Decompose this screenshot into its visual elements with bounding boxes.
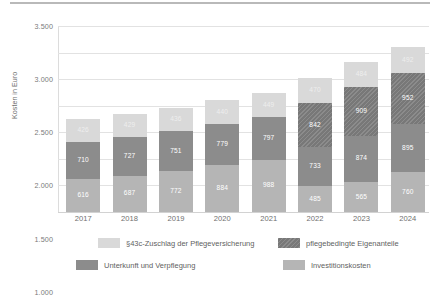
bar-group[interactable]: 884779440 — [205, 100, 239, 212]
bar-segment-value-label: 436 — [170, 116, 181, 123]
bar-segment-value-label: 426 — [77, 127, 88, 134]
bar-segment[interactable]: 436 — [159, 108, 193, 131]
bar-segment-value-label: 616 — [77, 192, 88, 199]
bar-segment[interactable]: 842 — [298, 103, 332, 148]
legend-swatch-icon — [76, 260, 98, 270]
bar-group[interactable]: 760895952492 — [391, 47, 425, 212]
bar-segment-value-label: 779 — [217, 141, 228, 148]
bar-segment-value-label: 429 — [124, 122, 135, 129]
x-axis-tick-label: 2017 — [66, 214, 100, 223]
legend-item-label: pflegebedingte Eigenanteile — [306, 239, 399, 248]
bar-segment-value-label: 909 — [356, 108, 367, 115]
legend-swatch-icon — [278, 238, 300, 248]
bar-segment[interactable]: 772 — [159, 171, 193, 212]
bar-segment[interactable]: 492 — [391, 47, 425, 73]
y-axis-tick-label: 1.000 — [35, 287, 54, 296]
bar-segment[interactable]: 952 — [391, 73, 425, 124]
legend-item-investitionskosten[interactable]: Investitionskosten — [283, 260, 371, 270]
chart-legend: §43c-Zuschlag der Pflegeversicherung pfl… — [28, 236, 428, 280]
gridline: 0 — [58, 212, 429, 213]
legend-item-unterkunft-und-verpflegung[interactable]: Unterkunft und Verpflegung — [76, 260, 195, 270]
bar-group[interactable]: 687727429 — [113, 114, 147, 212]
bar-segment-value-label: 772 — [170, 188, 181, 195]
x-axis-tick-label: 2022 — [298, 214, 332, 223]
bar-segment[interactable]: 988 — [252, 160, 286, 213]
bar-segment[interactable]: 751 — [159, 131, 193, 171]
bar-segment-value-label: 988 — [263, 182, 274, 189]
bar-group[interactable]: 772751436 — [159, 108, 193, 212]
bar-segment[interactable]: 449 — [252, 93, 286, 117]
bar-segment[interactable]: 895 — [391, 124, 425, 172]
bar-segment-value-label: 440 — [217, 109, 228, 116]
x-axis-tick-label: 2024 — [391, 214, 425, 223]
x-axis-tick-label: 2018 — [113, 214, 147, 223]
bar-segment-value-label: 727 — [124, 153, 135, 160]
bar-segment[interactable]: 779 — [205, 124, 239, 165]
legend-item-label: Unterkunft und Verpflegung — [104, 261, 195, 270]
bar-group[interactable]: 565874909484 — [344, 62, 378, 212]
bar-segment[interactable]: 874 — [344, 136, 378, 182]
bar-segment[interactable]: 470 — [298, 78, 332, 103]
bar-segment-value-label: 751 — [170, 148, 181, 155]
x-axis-tick-label: 2019 — [159, 214, 193, 223]
legend-item-zuschlag[interactable]: §43c-Zuschlag der Pflegeversicherung — [98, 238, 254, 248]
y-axis-tick-label: 3.000 — [35, 75, 54, 84]
bar-segment-value-label: 884 — [217, 185, 228, 192]
bar-segment[interactable]: 909 — [344, 87, 378, 135]
y-axis-title: Kosten in Euro — [10, 72, 19, 119]
y-axis-tick-label: 3.500 — [35, 22, 54, 31]
stacked-bar-chart: Kosten in Euro 3.5003.0002.5002.0001.500… — [0, 0, 440, 299]
x-axis-tick-label: 2020 — [205, 214, 239, 223]
bar-segment-value-label: 760 — [402, 189, 413, 196]
bar-segment-value-label: 484 — [356, 71, 367, 78]
bar-group[interactable]: 988797449 — [252, 93, 286, 212]
bar-segment-value-label: 874 — [356, 155, 367, 162]
bar-segment[interactable]: 440 — [205, 100, 239, 123]
legend-swatch-icon — [283, 260, 305, 270]
bar-segment[interactable]: 687 — [113, 176, 147, 213]
y-axis-tick-label: 2.000 — [35, 181, 54, 190]
bar-segment[interactable]: 884 — [205, 165, 239, 212]
bar-segment-value-label: 687 — [124, 190, 135, 197]
bars-layer: 6167104266877274297727514368847794409887… — [58, 26, 429, 212]
legend-swatch-icon — [98, 238, 120, 248]
bar-segment[interactable]: 565 — [344, 182, 378, 212]
bar-segment[interactable]: 727 — [113, 137, 147, 176]
legend-item-label: §43c-Zuschlag der Pflegeversicherung — [126, 239, 254, 248]
bar-segment-value-label: 797 — [263, 135, 274, 142]
bar-segment[interactable]: 484 — [344, 62, 378, 88]
bar-segment-value-label: 842 — [309, 122, 320, 129]
x-axis-tick-label: 2023 — [344, 214, 378, 223]
bar-segment-value-label: 449 — [263, 102, 274, 109]
legend-item-pflegebedingte-eigenanteile[interactable]: pflegebedingte Eigenanteile — [278, 238, 399, 248]
bar-segment[interactable]: 429 — [113, 114, 147, 137]
bar-segment-value-label: 710 — [77, 157, 88, 164]
bar-segment-value-label: 470 — [309, 87, 320, 94]
bar-segment[interactable]: 733 — [298, 147, 332, 186]
bar-group[interactable]: 616710426 — [66, 119, 100, 212]
bar-segment-value-label: 952 — [402, 95, 413, 102]
bar-segment[interactable]: 616 — [66, 179, 100, 212]
bar-segment[interactable]: 710 — [66, 142, 100, 180]
legend-item-label: Investitionskosten — [311, 261, 371, 270]
plot-area: 3.5003.0002.5002.0001.5001.0005000 61671… — [58, 26, 429, 212]
bar-segment[interactable]: 485 — [298, 186, 332, 212]
bar-segment-value-label: 485 — [309, 196, 320, 203]
x-axis-tick-label: 2021 — [252, 214, 286, 223]
bar-segment[interactable]: 426 — [66, 119, 100, 142]
bar-segment-value-label: 733 — [309, 163, 320, 170]
bar-segment-value-label: 565 — [356, 194, 367, 201]
y-axis-tick-label: 2.500 — [35, 128, 54, 137]
x-axis: 20172018201920202021202220232024 — [58, 214, 429, 228]
bar-group[interactable]: 485733842470 — [298, 78, 332, 212]
bar-segment[interactable]: 797 — [252, 117, 286, 159]
bar-segment-value-label: 895 — [402, 145, 413, 152]
bar-segment-value-label: 492 — [402, 57, 413, 64]
bar-segment[interactable]: 760 — [391, 172, 425, 212]
